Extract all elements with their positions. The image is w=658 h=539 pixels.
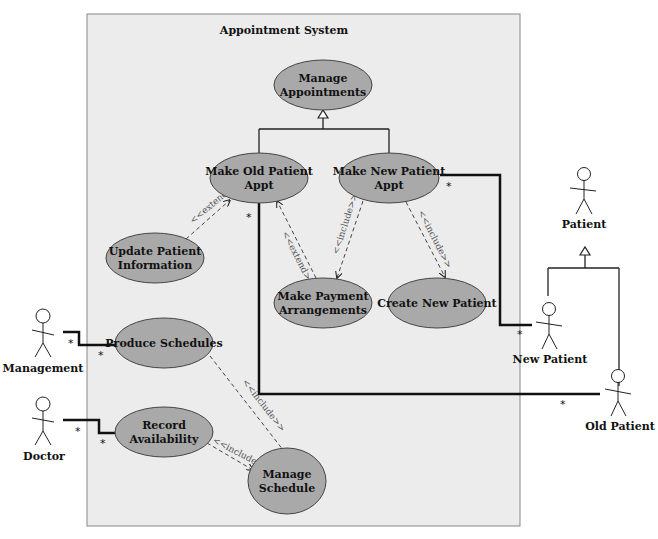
actor-old-patient[interactable]: Old Patient [585,370,656,434]
stick-figure-icon [605,370,631,417]
actor-label: Management [3,362,85,375]
use-case-label: Schedule [259,482,316,495]
use-case-label: Arrangements [278,304,367,317]
actor-label: Doctor [23,450,65,463]
svg-text:*: * [75,425,81,438]
actor-new-patient[interactable]: New Patient [513,303,589,367]
use-case-label: Appointments [279,86,366,99]
use-case-label: Manage [262,468,311,481]
svg-text:*: * [246,211,252,224]
use-case-label: Availability [129,433,199,446]
use-case-manage-appointments[interactable]: Manage Appointments [274,60,372,110]
use-case-update-patient-information[interactable]: Update Patient Information [106,233,204,283]
use-case-label: Make Old Patient [205,165,313,178]
stick-figure-icon [536,303,562,350]
use-case-label: Make New Patient [333,165,446,178]
stick-figure-icon [32,397,54,445]
stick-figure-icon [570,168,596,215]
svg-text:*: * [560,398,566,411]
svg-text:*: * [68,337,74,350]
actor-doctor[interactable]: Doctor [23,397,65,463]
use-case-diagram: Appointment System [0,0,658,539]
use-case-label: Produce Schedules [105,337,222,350]
svg-text:*: * [517,328,523,341]
use-case-label: Create New Patient [377,297,497,310]
actor-label: Old Patient [585,420,656,433]
use-case-label: Information [118,259,192,272]
svg-text:*: * [446,180,452,193]
use-case-record-availability[interactable]: Record Availability [115,407,213,457]
actor-label: Patient [562,218,607,231]
use-case-label: Appt [244,179,275,192]
system-title: Appointment System [219,24,349,37]
use-case-label: Update Patient [109,245,202,258]
svg-text:*: * [98,349,104,362]
actor-patient[interactable]: Patient [562,168,607,232]
use-case-label: Manage [298,72,347,85]
use-case-label: Make Payment [278,290,370,303]
use-case-make-payment-arrangements[interactable]: Make Payment Arrangements [274,278,372,328]
actor-label: New Patient [513,353,589,366]
svg-text:*: * [100,437,106,450]
use-case-manage-schedule[interactable]: Manage Schedule [248,448,326,514]
use-case-label: Appt [374,179,405,192]
stick-figure-icon [32,309,54,357]
use-case-label: Record [142,419,186,432]
